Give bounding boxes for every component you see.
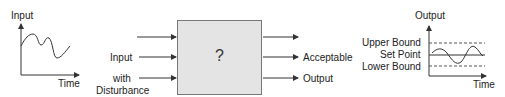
input-signal-curve bbox=[21, 34, 70, 58]
disturbance-label: Disturbance bbox=[96, 85, 149, 96]
lower-bound-label: Lower Bound bbox=[362, 61, 421, 72]
unknown-system-symbol: ? bbox=[178, 47, 261, 65]
output-graph-x-label: Time bbox=[473, 79, 495, 90]
input-graph-axes bbox=[21, 24, 79, 75]
output-graph-axes bbox=[429, 26, 486, 76]
system-black-box: ? bbox=[177, 20, 262, 95]
set-point-label: Set Point bbox=[380, 49, 421, 60]
input-label: Input bbox=[110, 52, 132, 63]
output-label: Output bbox=[303, 73, 333, 84]
input-graph-y-label: Input bbox=[11, 10, 33, 21]
output-graph-y-label: Output bbox=[415, 10, 445, 21]
acceptable-label: Acceptable bbox=[303, 52, 352, 63]
with-label: with bbox=[113, 73, 131, 84]
upper-bound-label: Upper Bound bbox=[362, 37, 421, 48]
input-graph-x-label: Time bbox=[58, 78, 80, 89]
